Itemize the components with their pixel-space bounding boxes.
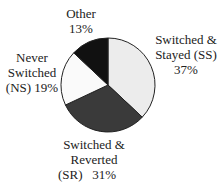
label-other: Other 13% xyxy=(56,6,106,36)
label-switched-stayed: Switched & Stayed (SS) 37% xyxy=(150,32,221,77)
label-never-switched: Never Switched (NS) 19% xyxy=(2,50,62,95)
label-switched-reverted: Switched & Reverted (SR) 31% xyxy=(50,137,134,182)
